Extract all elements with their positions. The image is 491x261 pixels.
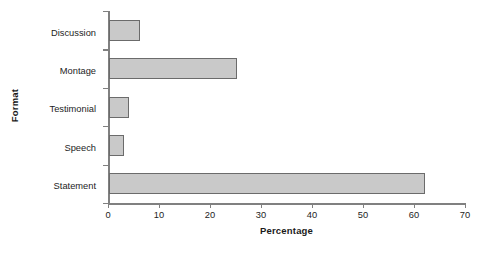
x-axis-tick <box>159 203 160 208</box>
x-axis-tick <box>414 203 415 208</box>
x-tick-label-20: 20 <box>195 210 225 221</box>
y-axis-tick <box>103 126 108 127</box>
x-axis-tick <box>261 203 262 208</box>
x-tick-label-0: 0 <box>93 210 123 221</box>
y-tick-label-testimonial: Testimonial <box>16 104 96 115</box>
x-tick-label-60: 60 <box>399 210 429 221</box>
bar-discussion <box>109 20 140 41</box>
y-axis-tick <box>103 88 108 89</box>
plot-area: 0 10 20 30 40 50 60 70 <box>108 11 465 203</box>
y-axis-tick <box>103 11 108 12</box>
y-tick-label-discussion: Discussion <box>16 28 96 39</box>
bar-chart: Format Discussion Montage Testimonial Sp… <box>0 0 491 261</box>
x-axis-tick <box>210 203 211 208</box>
y-axis-tick <box>103 49 108 50</box>
bar-statement <box>109 173 425 194</box>
x-axis-tick <box>465 203 466 208</box>
bar-montage <box>109 58 237 79</box>
x-tick-label-50: 50 <box>348 210 378 221</box>
bar-testimonial <box>109 97 129 118</box>
y-tick-label-speech: Speech <box>16 143 96 154</box>
x-axis-tick <box>108 203 109 208</box>
y-axis-tick <box>103 165 108 166</box>
x-tick-label-70: 70 <box>450 210 480 221</box>
x-axis-line <box>108 203 465 205</box>
x-tick-label-40: 40 <box>297 210 327 221</box>
x-axis-tick <box>312 203 313 208</box>
x-axis-tick <box>363 203 364 208</box>
x-tick-label-30: 30 <box>246 210 276 221</box>
bar-speech <box>109 135 124 156</box>
y-tick-label-montage: Montage <box>16 66 96 77</box>
x-axis-title: Percentage <box>108 225 465 236</box>
y-tick-label-statement: Statement <box>16 181 96 192</box>
y-axis-tick-labels: Discussion Montage Testimonial Speech St… <box>20 11 100 203</box>
x-tick-label-10: 10 <box>144 210 174 221</box>
